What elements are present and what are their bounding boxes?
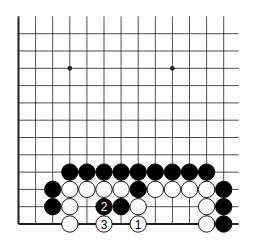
black-stone — [79, 164, 95, 180]
stone-disc — [130, 181, 146, 197]
stone-disc — [181, 181, 197, 197]
white-stone — [62, 199, 78, 215]
black-stone — [198, 164, 214, 180]
black-stone — [45, 181, 61, 197]
stone-disc — [96, 164, 112, 180]
stones-layer: 231 — [45, 164, 232, 232]
white-stone — [96, 181, 112, 197]
black-stone — [164, 164, 180, 180]
star-point — [67, 66, 72, 71]
white-stone — [130, 199, 146, 215]
star-point — [170, 66, 175, 71]
stone-disc — [113, 164, 129, 180]
white-stone — [181, 181, 197, 197]
move-number-label: 3 — [101, 218, 108, 232]
black-stone — [113, 164, 129, 180]
white-stone — [79, 181, 95, 197]
stone-disc — [164, 181, 180, 197]
stone-disc — [181, 164, 197, 180]
black-stone — [181, 164, 197, 180]
white-stone — [198, 199, 214, 215]
stone-disc — [164, 164, 180, 180]
black-stone — [130, 164, 146, 180]
black-stone — [96, 164, 112, 180]
black-stone — [62, 164, 78, 180]
black-stone — [216, 199, 232, 215]
go-board: 231 — [0, 0, 257, 247]
stone-disc — [62, 164, 78, 180]
black-stone — [216, 216, 232, 232]
move-number-label: 2 — [101, 200, 108, 214]
white-stone — [113, 181, 129, 197]
stone-disc — [79, 164, 95, 180]
white-stone — [164, 181, 180, 197]
stone-disc — [62, 216, 78, 232]
white-stone — [198, 181, 214, 197]
stone-disc — [216, 181, 232, 197]
stone-disc — [216, 216, 232, 232]
white-stone — [198, 216, 214, 232]
black-stone — [130, 181, 146, 197]
stone-disc — [113, 199, 129, 215]
move-number-label: 1 — [135, 218, 142, 232]
stone-disc — [216, 199, 232, 215]
white-stone — [62, 181, 78, 197]
black-stone — [147, 164, 163, 180]
stone-disc — [45, 199, 61, 215]
white-stone-move-3: 3 — [96, 216, 112, 232]
white-stone — [62, 216, 78, 232]
stone-disc — [147, 164, 163, 180]
stone-disc — [198, 164, 214, 180]
white-stone-move-1: 1 — [130, 216, 146, 232]
stone-disc — [96, 181, 112, 197]
black-stone — [113, 199, 129, 215]
stone-disc — [198, 199, 214, 215]
black-stone — [45, 199, 61, 215]
black-stone — [216, 181, 232, 197]
stone-disc — [130, 199, 146, 215]
stone-disc — [62, 181, 78, 197]
stone-disc — [79, 181, 95, 197]
stone-disc — [62, 199, 78, 215]
stone-disc — [147, 181, 163, 197]
stone-disc — [113, 181, 129, 197]
stone-disc — [130, 164, 146, 180]
white-stone — [147, 181, 163, 197]
stone-disc — [45, 181, 61, 197]
stone-disc — [198, 216, 214, 232]
black-stone-move-2: 2 — [96, 199, 112, 215]
stone-disc — [198, 181, 214, 197]
